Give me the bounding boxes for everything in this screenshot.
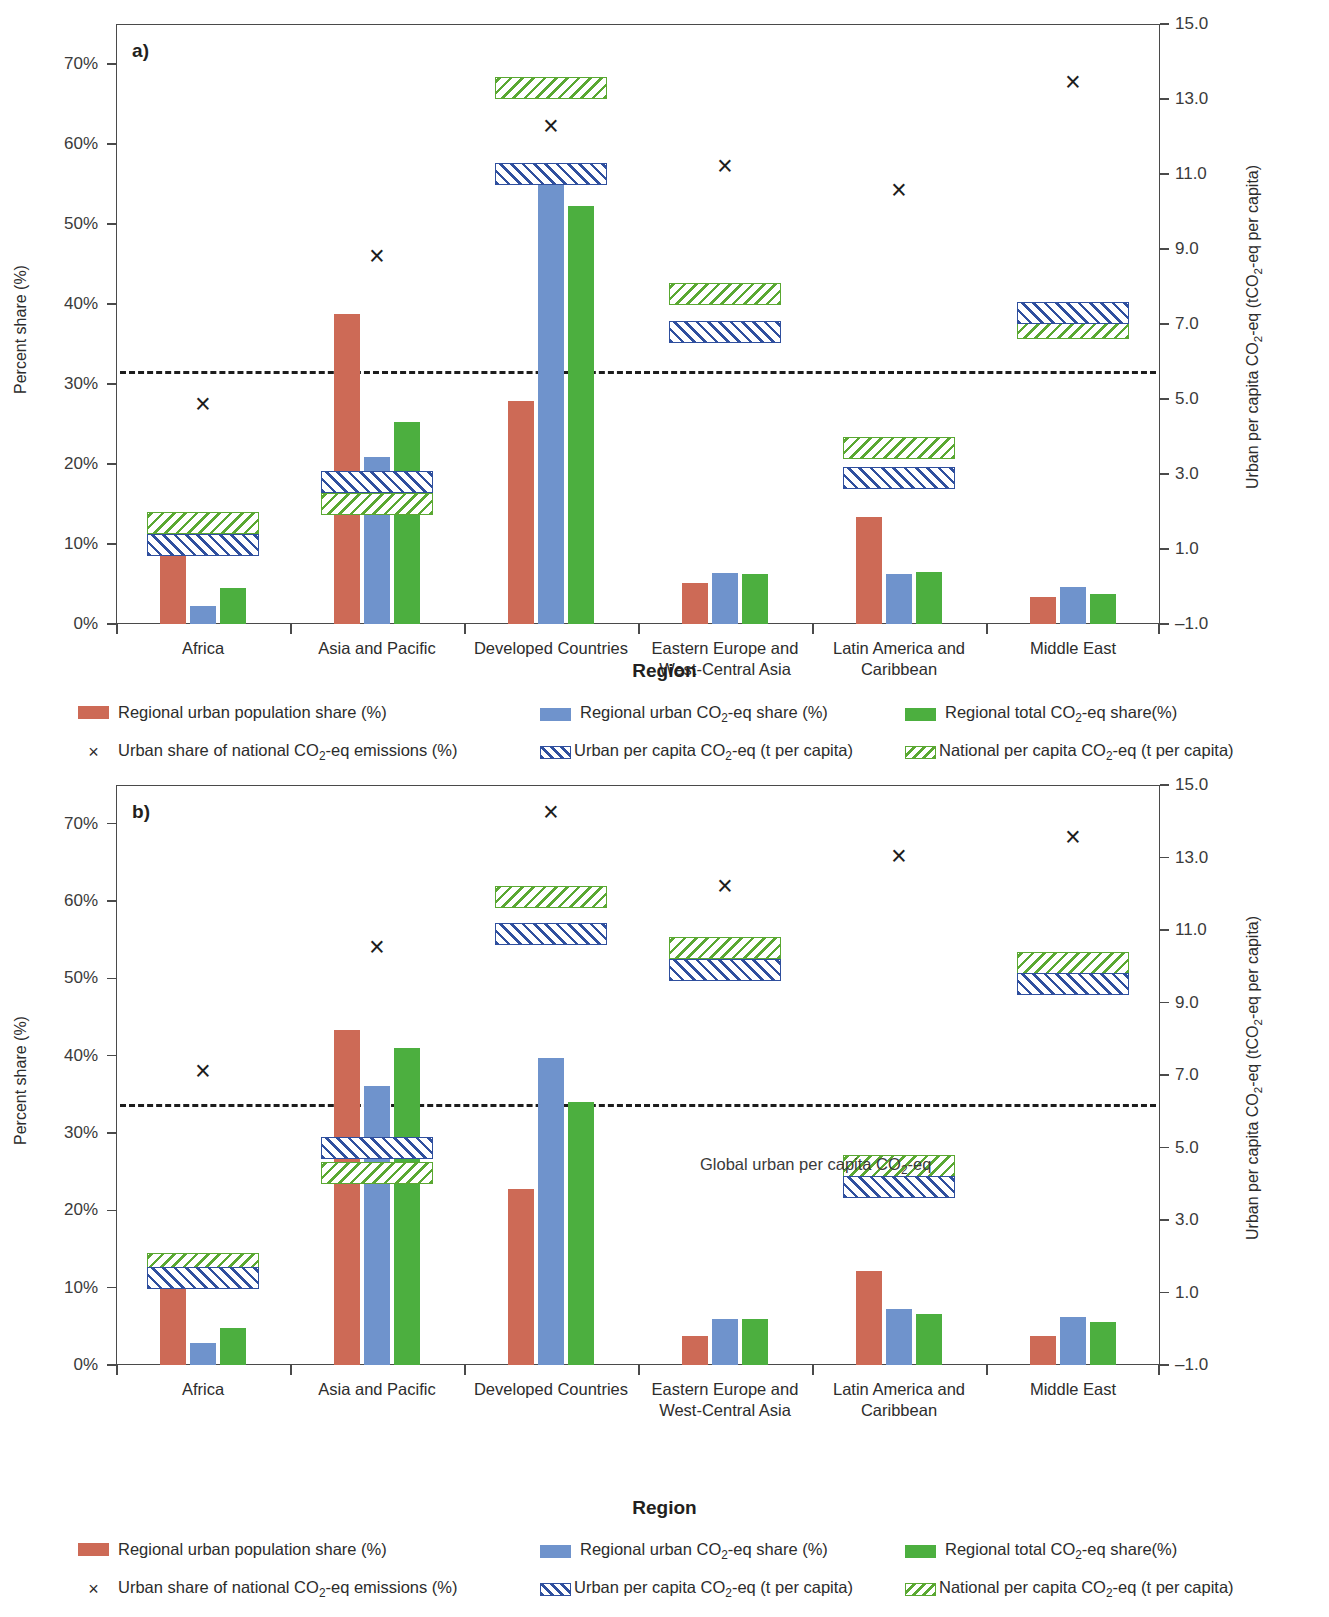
- x-tick-mark: [464, 1365, 466, 1375]
- bar-total-co2-share: [1090, 594, 1116, 624]
- band-urban-per-capita: [321, 1137, 433, 1159]
- red-swatch-icon: [78, 1543, 109, 1556]
- bar-urban-population-share: [1030, 597, 1056, 624]
- y2-axis-title-b: Urban per capita CO2-eq (tCO2-eq per cap…: [1244, 916, 1264, 1240]
- marker-urban-share-national: ×: [1065, 823, 1081, 850]
- legend-item-national_percap[interactable]: National per capita CO2-eq (t per capita…: [905, 1578, 1234, 1600]
- y-tick-label: 30%: [30, 374, 98, 394]
- bar-urban-population-share: [334, 1030, 360, 1365]
- legend-item-urban_co2_share[interactable]: Regional urban CO2-eq share (%): [540, 703, 828, 725]
- bar-urban-population-share: [856, 517, 882, 624]
- bar-total-co2-share: [394, 422, 420, 624]
- green-swatch-icon: [905, 708, 936, 721]
- band-urban-per-capita: [321, 471, 433, 493]
- blue-swatch-icon: [540, 1545, 571, 1558]
- y2-tick-label: 13.0: [1175, 848, 1208, 868]
- y-tick-mark: [107, 900, 116, 902]
- y-tick-mark: [107, 543, 116, 545]
- red-swatch-icon: [78, 706, 109, 719]
- x-tick-mark: [638, 624, 640, 634]
- legend-item-urban_share_nat[interactable]: ×Urban share of national CO2-eq emission…: [78, 741, 458, 763]
- band-national-per-capita: [669, 283, 781, 305]
- legend-item-urban_pop_share[interactable]: Regional urban population share (%): [78, 703, 387, 722]
- bar-total-co2-share: [742, 1319, 768, 1365]
- y-tick-mark: [107, 823, 116, 825]
- y-tick-label: 30%: [30, 1123, 98, 1143]
- panel-b: b) Percent share (%) Urban per capita CO…: [0, 770, 1329, 1617]
- y2-tick-label: 15.0: [1175, 14, 1208, 34]
- band-national-per-capita: [495, 886, 607, 908]
- reference-line-annotation-b: Global urban per capita CO2-eq: [700, 1155, 931, 1177]
- plot-area-a: [116, 24, 1160, 624]
- y2-tick-label: 11.0: [1175, 164, 1207, 184]
- bar-urban-co2-share: [538, 164, 564, 624]
- band-urban-per-capita: [1017, 973, 1129, 995]
- bar-total-co2-share: [394, 1048, 420, 1365]
- y2-tick-mark: [1160, 548, 1169, 550]
- legend-item-urban_percap[interactable]: Urban per capita CO2-eq (t per capita): [540, 1578, 853, 1600]
- bar-urban-co2-share: [364, 1086, 390, 1365]
- legend-label: Urban per capita CO2-eq (t per capita): [574, 1578, 853, 1600]
- bar-urban-population-share: [508, 401, 534, 624]
- bar-total-co2-share: [742, 574, 768, 624]
- reference-line: [120, 371, 1156, 374]
- bar-urban-co2-share: [190, 606, 216, 624]
- band-urban-per-capita: [669, 959, 781, 981]
- legend-label: Regional urban population share (%): [118, 1540, 387, 1559]
- bar-urban-co2-share: [886, 574, 912, 624]
- legend-item-urban_pop_share[interactable]: Regional urban population share (%): [78, 1540, 387, 1559]
- y-tick-label: 70%: [30, 814, 98, 834]
- bar-total-co2-share: [916, 1314, 942, 1365]
- y2-tick-mark: [1160, 98, 1169, 100]
- y-tick-mark: [107, 63, 116, 65]
- x-tick-mark: [638, 1365, 640, 1375]
- bar-urban-co2-share: [1060, 587, 1086, 624]
- legend-label: Urban share of national CO2-eq emissions…: [118, 741, 458, 763]
- legend-item-total_co2_share[interactable]: Regional total CO2-eq share(%): [905, 1540, 1177, 1562]
- band-national-per-capita: [1017, 952, 1129, 974]
- y2-tick-mark: [1160, 323, 1169, 325]
- y2-tick-label: 5.0: [1175, 1138, 1199, 1158]
- bar-total-co2-share: [220, 588, 246, 624]
- y-tick-mark: [107, 978, 116, 980]
- panel-a-label: a): [132, 40, 149, 62]
- bar-urban-co2-share: [190, 1343, 216, 1365]
- legend-item-urban_share_nat[interactable]: ×Urban share of national CO2-eq emission…: [78, 1578, 458, 1600]
- x-tick-mark: [986, 624, 988, 634]
- bar-urban-population-share: [856, 1271, 882, 1365]
- blue-swatch-icon: [540, 708, 571, 721]
- bar-urban-population-share: [682, 583, 708, 624]
- y-tick-mark: [107, 1055, 116, 1057]
- y2-tick-mark: [1160, 623, 1169, 625]
- y-tick-mark: [107, 383, 116, 385]
- x-tick-mark: [1158, 1365, 1160, 1375]
- y2-tick-label: 1.0: [1175, 539, 1199, 559]
- blue-hatch-swatch-icon: [540, 746, 571, 759]
- blue-hatch-swatch-icon: [540, 1583, 571, 1596]
- marker-urban-share-national: ×: [543, 113, 559, 140]
- band-urban-per-capita: [1017, 302, 1129, 324]
- bar-urban-population-share: [682, 1336, 708, 1365]
- band-urban-per-capita: [669, 321, 781, 343]
- y2-tick-mark: [1160, 248, 1169, 250]
- y2-tick-mark: [1160, 1292, 1169, 1294]
- y2-axis-title-a: Urban per capita CO2-eq (tCO2-eq per cap…: [1244, 165, 1264, 489]
- green-hatch-swatch-icon: [905, 746, 936, 759]
- y2-tick-label: 3.0: [1175, 1210, 1199, 1230]
- legend-label: Urban per capita CO2-eq (t per capita): [574, 741, 853, 763]
- x-tick-mark: [812, 1365, 814, 1375]
- legend-item-national_percap[interactable]: National per capita CO2-eq (t per capita…: [905, 741, 1234, 763]
- band-urban-per-capita: [495, 923, 607, 945]
- y-tick-mark: [107, 1287, 116, 1289]
- band-urban-per-capita: [843, 1176, 955, 1198]
- legend-item-urban_percap[interactable]: Urban per capita CO2-eq (t per capita): [540, 741, 853, 763]
- y-tick-label: 50%: [30, 214, 98, 234]
- x-tick-mark: [116, 624, 118, 634]
- y-tick-mark: [107, 1132, 116, 1134]
- y-tick-label: 20%: [30, 454, 98, 474]
- legend-item-urban_co2_share[interactable]: Regional urban CO2-eq share (%): [540, 1540, 828, 1562]
- band-national-per-capita: [321, 493, 433, 515]
- legend-label: Regional urban population share (%): [118, 703, 387, 722]
- band-urban-per-capita: [147, 1267, 259, 1289]
- legend-item-total_co2_share[interactable]: Regional total CO2-eq share(%): [905, 703, 1177, 725]
